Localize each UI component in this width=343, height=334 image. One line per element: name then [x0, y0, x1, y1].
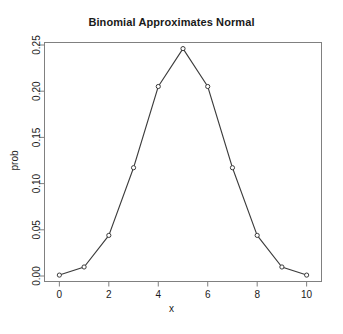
- x-tick-label: 4: [155, 289, 161, 300]
- plot-box: [45, 43, 322, 282]
- x-tick-label: 8: [254, 289, 260, 300]
- y-tick-label: 0.05: [31, 220, 42, 240]
- x-tick-label: 6: [205, 289, 211, 300]
- x-axis-label: x: [0, 303, 343, 314]
- data-point-marker: [131, 166, 135, 170]
- x-tick-label: 2: [106, 289, 112, 300]
- y-tick-label: 0.15: [31, 127, 42, 147]
- plot-canvas: 0.000.050.100.150.200.25 0246810: [0, 0, 343, 334]
- y-tick-label: 0.00: [31, 266, 42, 286]
- x-tick-label: 0: [57, 289, 63, 300]
- y-tick-label: 0.25: [31, 35, 42, 55]
- data-point-marker: [206, 84, 210, 88]
- data-point-marker: [305, 273, 309, 277]
- data-point-marker: [156, 84, 160, 88]
- y-axis-ticks: 0.000.050.100.150.200.25: [31, 35, 45, 286]
- data-point-marker: [230, 166, 234, 170]
- y-tick-label: 0.20: [31, 81, 42, 101]
- y-tick-label: 0.10: [31, 173, 42, 193]
- data-point-marker: [181, 47, 185, 51]
- chart-figure: Binomial Approximates Normal 0.000.050.1…: [0, 0, 343, 334]
- data-point-marker: [57, 273, 61, 277]
- x-axis-ticks: 0246810: [57, 282, 313, 300]
- data-point-marker: [280, 265, 284, 269]
- x-tick-label: 10: [301, 289, 313, 300]
- data-point-marker: [255, 233, 259, 237]
- data-series-markers: [57, 47, 308, 278]
- data-series-line: [59, 49, 306, 275]
- data-point-marker: [107, 233, 111, 237]
- data-point-marker: [82, 265, 86, 269]
